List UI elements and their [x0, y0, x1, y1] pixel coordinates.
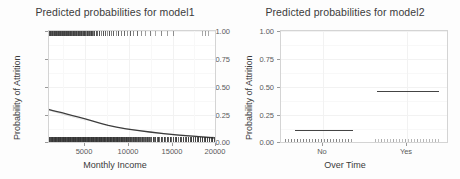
prediction-segment-no — [295, 130, 353, 131]
gridline-minor-y-0.625 — [281, 73, 447, 74]
y-axis-title-model2: Probability of Attrition — [244, 55, 254, 140]
gridline-y-0.00 — [281, 142, 447, 143]
x-tick-label-yes: Yes — [400, 147, 412, 156]
plot-area-model1 — [48, 30, 216, 143]
x-tick-mark-20000 — [215, 143, 216, 146]
x-tick-label-20000: 20000 — [205, 147, 226, 156]
figure-canvas: Predicted probabilities for model1 Proba… — [0, 0, 460, 179]
gridline-minor-y-0.875 — [281, 45, 447, 46]
plot-area-model2 — [280, 30, 448, 143]
x-tick-mark-no — [322, 143, 323, 146]
gridline-y-0.75 — [281, 59, 447, 60]
chart-panel-model1: Predicted probabilities for model1 Proba… — [0, 0, 230, 179]
y-tick-label-5: 0.00 — [250, 138, 274, 147]
chart-title-model1: Predicted probabilities for model1 — [0, 6, 230, 18]
x-tick-label-10000: 10000 — [118, 147, 139, 156]
x-tick-mark-10000 — [128, 143, 129, 146]
x-tick-mark-15000 — [172, 143, 173, 146]
x-tick-mark-5000 — [84, 143, 85, 146]
prediction-segment-yes — [377, 91, 439, 92]
y-axis-title-model1: Probability of Attrition — [12, 55, 22, 140]
gridline-y-0.50 — [281, 87, 447, 88]
x-tick-label-15000: 15000 — [162, 147, 183, 156]
gridline-x-No — [323, 31, 324, 142]
x-axis-title-model2: Over Time — [230, 160, 460, 170]
y-tick-label-2: 0.75 — [250, 55, 274, 64]
chart-title-model2: Predicted probabilities for model2 — [230, 6, 460, 18]
x-tick-label-5000: 5000 — [76, 147, 93, 156]
gridline-x-Yes — [407, 31, 408, 142]
y-tick-label-1: 1.00 — [250, 27, 274, 36]
chart-panel-model2: Predicted probabilities for model2 Proba… — [230, 0, 460, 179]
x-tick-mark-yes — [406, 143, 407, 146]
gridline-y-1.00 — [281, 31, 447, 32]
y-tick-label-4: 0.25 — [250, 111, 274, 120]
gridline-y-0.25 — [281, 115, 447, 116]
fit-curve-model1 — [49, 31, 215, 142]
gridline-y-0.00 — [49, 142, 215, 143]
x-tick-label-no: No — [317, 147, 327, 156]
x-axis-title-model1: Monthly Income — [0, 160, 230, 170]
gridline-minor-y-0.375 — [281, 101, 447, 102]
y-tick-label-3: 0.50 — [250, 83, 274, 92]
